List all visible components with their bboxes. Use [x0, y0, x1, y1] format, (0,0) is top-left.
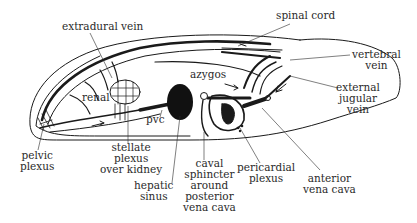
leader-hepatic-sinus: [172, 116, 180, 183]
hepatic-sinus: [167, 84, 193, 120]
label-stellate-plexus: stellate plexus over kidney: [100, 142, 162, 175]
label-pelvic-plexus: pelvic plexus: [20, 150, 54, 172]
label-pvc: pvc: [146, 114, 165, 125]
leader-vertebral-vein: [290, 55, 350, 60]
leader-external-jugular: [290, 76, 338, 88]
label-vertebral-vein: vertebral vein: [352, 49, 401, 71]
posterior-vena-cava: [140, 104, 170, 110]
label-caval-sphincter: caval sphincter around posterior vena ca…: [183, 158, 236, 213]
label-anterior-vena-cava: anterior vena cava: [303, 173, 356, 195]
label-azygos: azygos: [190, 69, 226, 80]
label-extradural-vein: extradural vein: [62, 21, 143, 32]
label-hepatic-sinus: hepatic sinus: [134, 180, 173, 202]
label-spinal-cord: spinal cord: [276, 10, 335, 21]
label-renal: renal: [82, 92, 110, 103]
stellate-plexus: [110, 80, 140, 104]
label-external-jugular-vein: external jugular vein: [336, 82, 380, 115]
caval-sphincter: [201, 93, 208, 100]
label-pericardial-plexus: pericardial plexus: [237, 162, 295, 184]
leader-pericardial-plexus: [240, 128, 260, 163]
venous-system-diagram: extradural vein spinal cord vertebral ve…: [0, 0, 417, 223]
